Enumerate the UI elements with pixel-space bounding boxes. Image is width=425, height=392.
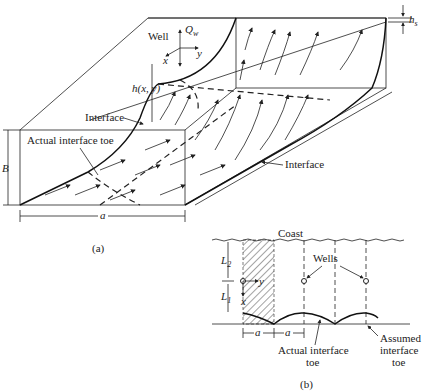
coastline xyxy=(212,239,404,241)
spacing-label-b2: a xyxy=(285,326,291,338)
caption-a: (a) xyxy=(92,242,105,255)
thickness-label: B xyxy=(2,162,9,174)
axis-y-label-b: y xyxy=(258,275,264,287)
assumed-toe-label-2: interface xyxy=(380,344,419,356)
head-label: h(x, y) xyxy=(132,82,160,95)
well-marker xyxy=(302,279,307,284)
back-face xyxy=(236,18,386,88)
axis-x-label: x xyxy=(162,54,168,66)
axis-y-label: y xyxy=(196,47,202,59)
L2-label: L2 xyxy=(220,254,231,269)
coast-label: Coast xyxy=(278,227,303,239)
part-b-plan xyxy=(212,239,410,324)
spacing-label: a xyxy=(100,209,106,221)
caption-b: (b) xyxy=(300,378,313,391)
well-marker xyxy=(364,279,369,284)
actual-toe-label-b1: Actual interface xyxy=(278,344,349,356)
actual-toe-label-b2: toe xyxy=(306,356,320,368)
interface-label-right: Interface xyxy=(285,158,324,170)
interface-label-left: Interface xyxy=(85,111,124,123)
L1-label: L1 xyxy=(220,290,231,305)
part-a-block xyxy=(20,18,392,205)
aquifer-diagram: Well Qw x y h(x, y) Interface Interface … xyxy=(0,0,425,392)
spacing-label-b1: a xyxy=(255,326,261,338)
actual-toe-label: Actual interface toe xyxy=(27,134,114,146)
axis-x-label-b: x xyxy=(240,295,246,307)
wells-label: Wells xyxy=(313,252,338,264)
hs-label: hs xyxy=(409,13,418,28)
assumed-toe-label-3: toe xyxy=(392,356,406,368)
well-label: Well xyxy=(148,30,169,42)
discharge-label: Qw xyxy=(185,23,199,38)
assumed-toe-label-1: Assumed xyxy=(380,332,421,344)
interface-surface xyxy=(20,18,386,205)
